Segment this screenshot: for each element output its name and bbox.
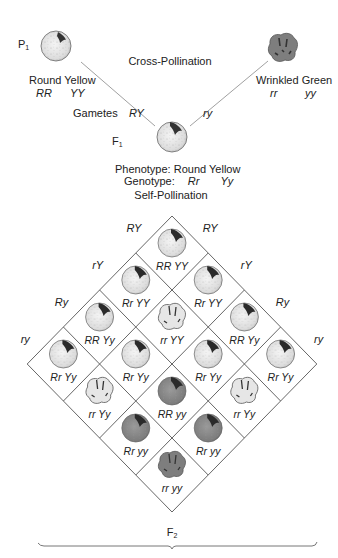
seed-f1-round-yellow: [157, 122, 187, 152]
seed-round-yellow-icon: [122, 340, 150, 368]
punnett-cell-genotype: RR Yy: [85, 335, 115, 346]
punnett-cell-genotype: rr Yy: [89, 409, 111, 420]
seed-round-yellow-icon: [194, 340, 222, 368]
seed-round-green-icon: [122, 414, 150, 442]
punnett-cell-genotype: rr yy: [162, 483, 182, 494]
cross-line-right: [190, 61, 268, 126]
punnett-cell-genotype: RR yy: [158, 409, 187, 420]
punnett-cell-genotype: Rr Yy: [268, 372, 294, 383]
gamete-label-right: rY: [241, 260, 252, 271]
punnett-cell-genotype: Rr Yy: [123, 372, 149, 383]
punnett-cell-genotype: rr Yy: [233, 409, 255, 420]
gamete-label-left: Ry: [55, 297, 68, 308]
gametes-label: Gametes: [73, 108, 118, 119]
punnett-cell-genotype: Rr Yy: [195, 372, 221, 383]
f1-phenotype: Phenotype: Round Yellow: [115, 164, 240, 175]
punnett-cell-genotype: Rr yy: [196, 446, 221, 457]
seed-round-yellow-icon: [86, 303, 114, 331]
seed-round-yellow-icon: [122, 266, 150, 294]
punnett-cell-genotype: Rr YY: [122, 298, 150, 309]
gamete-label-right: RY: [203, 223, 218, 234]
left-parent-phenotype: Round Yellow: [29, 75, 96, 86]
punnett-cell-genotype: Rr yy: [124, 446, 149, 457]
punnett-cell-genotype: rr YY: [160, 335, 184, 346]
right-parent-phenotype: Wrinkled Green: [256, 75, 332, 86]
seed-wrinkled-yellow-icon: [231, 377, 258, 403]
seed-round-yellow-icon: [158, 229, 186, 257]
left-parent-genotype-r: RR: [36, 88, 52, 99]
cross-pollination-label: Cross-Pollination: [128, 56, 211, 67]
seed-wrinkled-green-icon: [158, 451, 185, 477]
gamete-label-right: Ry: [276, 297, 289, 308]
gamete-right: ry: [203, 108, 212, 119]
punnett-cell-genotype: RR Yy: [229, 335, 259, 346]
seed-parent-round-yellow: [41, 31, 71, 61]
punnett-cell-genotype: RR YY: [156, 261, 188, 272]
right-parent-genotype-r: rr: [270, 88, 277, 99]
gamete-left: RY: [129, 108, 144, 119]
p1-label: P1: [18, 39, 29, 51]
seed-wrinkled-yellow-icon: [158, 303, 185, 329]
gamete-label-right: ry: [314, 334, 323, 345]
f2-label: F2: [167, 527, 178, 539]
gamete-label-left: RY: [126, 223, 141, 234]
seed-round-green-icon: [194, 414, 222, 442]
punnett-cell-genotype: Rr YY: [194, 298, 222, 309]
right-parent-genotype-y: yy: [305, 88, 316, 99]
seed-round-yellow-icon: [230, 303, 258, 331]
punnett-cell-genotype: Rr Yy: [50, 372, 76, 383]
seed-round-yellow-icon: [267, 340, 295, 368]
f1-genotype: Genotype: Rr Yy: [124, 176, 233, 187]
seed-parent-wrinkled-green: [268, 33, 297, 61]
gamete-label-left: ry: [21, 334, 30, 345]
left-parent-genotype-y: YY: [70, 88, 85, 99]
seed-round-yellow-icon: [194, 266, 222, 294]
seed-round-yellow-icon: [49, 340, 77, 368]
seed-wrinkled-yellow-icon: [86, 377, 113, 403]
f1-label: F1: [112, 136, 123, 148]
gamete-label-left: rY: [92, 260, 103, 271]
f2-brace: [38, 542, 317, 549]
seed-round-green-icon: [158, 377, 186, 405]
self-pollination-label: Self-Pollination: [134, 190, 207, 201]
